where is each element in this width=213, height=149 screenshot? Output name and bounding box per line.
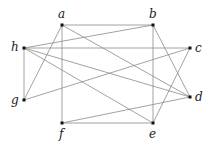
node-label-a: a	[58, 7, 65, 21]
node-label-b: b	[149, 7, 157, 21]
edges-layer	[24, 25, 190, 123]
node-label-e: e	[149, 127, 156, 141]
node-h	[23, 47, 26, 50]
node-f	[61, 122, 64, 125]
node-label-h: h	[11, 40, 19, 54]
node-label-g: g	[11, 93, 19, 107]
edge-f-d	[62, 97, 190, 123]
node-a	[61, 24, 64, 27]
node-e	[152, 122, 155, 125]
edge-h-d	[24, 48, 190, 97]
graph-diagram: abcdefgh	[0, 0, 213, 149]
node-c	[189, 47, 192, 50]
node-label-c: c	[195, 41, 202, 55]
node-label-f: f	[58, 127, 66, 141]
node-b	[152, 24, 155, 27]
edge-b-h	[24, 25, 153, 48]
node-d	[189, 96, 192, 99]
edge-h-e	[24, 48, 153, 123]
node-g	[23, 99, 26, 102]
edge-a-g	[24, 25, 62, 100]
node-label-d: d	[195, 90, 203, 104]
edge-c-g	[24, 48, 190, 100]
